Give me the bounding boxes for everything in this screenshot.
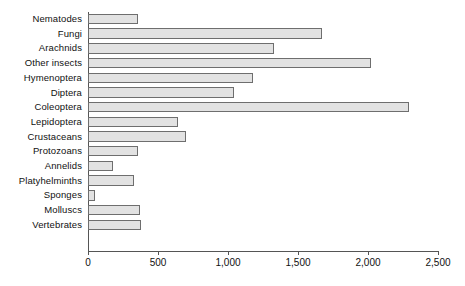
x-tick-label: 2,500 <box>425 257 450 268</box>
x-tick-mark <box>88 251 89 255</box>
x-tick-mark <box>158 251 159 255</box>
x-tick-label: 2,000 <box>355 257 380 268</box>
x-tick-mark <box>368 251 369 255</box>
x-tick-label: 0 <box>85 257 91 268</box>
x-axis-ticks: 05001,0001,5002,0002,500 <box>0 0 465 286</box>
x-tick-mark <box>438 251 439 255</box>
x-tick-label: 500 <box>150 257 167 268</box>
x-tick-label: 1,500 <box>285 257 310 268</box>
x-tick-mark <box>228 251 229 255</box>
x-tick-label: 1,000 <box>215 257 240 268</box>
x-tick-mark <box>298 251 299 255</box>
bar-chart: NematodesFungiArachnidsOther insectsHyme… <box>0 0 465 286</box>
